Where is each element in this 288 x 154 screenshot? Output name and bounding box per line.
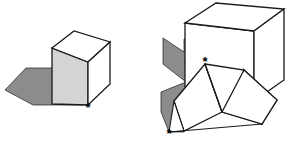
diagram-svg: * * * <box>0 0 288 154</box>
right-figure-group: * * <box>161 3 284 141</box>
left-figure-group: * <box>5 31 110 115</box>
figure-canvas: * * * <box>0 0 288 154</box>
